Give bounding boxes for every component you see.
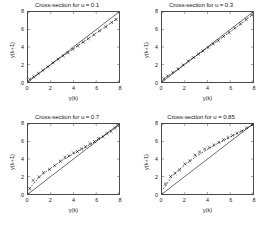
y-tick-label: 8 xyxy=(148,120,158,126)
x-tick-label: 2 xyxy=(183,85,186,91)
x-tick-label: 4 xyxy=(72,85,75,91)
y-tick-label: 6 xyxy=(148,26,158,32)
y-tick-label: 6 xyxy=(14,26,24,32)
data-point-marker xyxy=(194,154,197,157)
subplot-4: Cross-section for u = 0.850246802468y(k)… xyxy=(134,112,268,224)
x-axis-label: y(k) xyxy=(27,95,120,101)
data-point-marker xyxy=(169,175,172,178)
data-point-marker xyxy=(64,156,67,159)
data-point-marker xyxy=(228,31,231,34)
x-tick-label: 0 xyxy=(26,197,29,203)
y-tick-label: 0 xyxy=(14,192,24,198)
data-point-marker xyxy=(197,53,200,56)
x-axis-label: y(k) xyxy=(161,95,254,101)
data-point-marker xyxy=(53,164,56,167)
subplot-2: Cross-section for u = 0.30246802468y(k)y… xyxy=(134,0,268,112)
y-tick-label: 4 xyxy=(148,156,158,162)
subplot-title: Cross-section for u = 0.7 xyxy=(0,113,134,120)
data-point-marker xyxy=(240,130,243,133)
fit-curve-line xyxy=(29,126,118,189)
x-tick-label: 8 xyxy=(253,197,256,203)
data-point-marker xyxy=(82,41,85,44)
x-tick-label: 2 xyxy=(49,85,52,91)
data-point-marker xyxy=(203,147,206,150)
y-tick-label: 2 xyxy=(148,62,158,68)
plot-area xyxy=(27,11,120,83)
x-tick-label: 0 xyxy=(26,85,29,91)
plot-graphics xyxy=(28,12,119,82)
y-tick-label: 0 xyxy=(14,80,24,86)
y-tick-label: 2 xyxy=(14,62,24,68)
x-tick-label: 0 xyxy=(160,85,163,91)
x-tick-label: 0 xyxy=(160,197,163,203)
y-tick-label: 6 xyxy=(14,138,24,144)
y-tick-label: 8 xyxy=(148,8,158,14)
x-tick-label: 8 xyxy=(119,85,122,91)
figure-canvas: Cross-section for u = 0.10246802468y(k)y… xyxy=(0,0,269,225)
x-tick-label: 6 xyxy=(229,85,232,91)
identity-line xyxy=(162,124,253,194)
data-point-marker xyxy=(217,39,220,42)
y-tick-label: 6 xyxy=(148,138,158,144)
y-tick-label: 8 xyxy=(14,8,24,14)
y-tick-label: 4 xyxy=(14,44,24,50)
data-point-marker xyxy=(250,124,253,126)
x-tick-label: 4 xyxy=(206,85,209,91)
y-axis-label: y(k+1) xyxy=(143,30,149,70)
data-point-marker xyxy=(166,74,169,77)
plot-graphics xyxy=(162,124,253,194)
subplot-title: Cross-section for u = 0.1 xyxy=(0,1,134,8)
y-axis-label: y(k+1) xyxy=(9,142,15,182)
plot-area xyxy=(27,123,120,195)
data-point-marker xyxy=(98,29,101,32)
x-tick-label: 2 xyxy=(49,197,52,203)
x-tick-label: 8 xyxy=(253,85,256,91)
x-tick-label: 6 xyxy=(95,85,98,91)
data-point-marker xyxy=(110,21,113,24)
data-point-marker xyxy=(46,65,49,68)
x-tick-label: 6 xyxy=(229,197,232,203)
y-axis-label: y(k+1) xyxy=(143,142,149,182)
y-axis-label: y(k+1) xyxy=(9,30,15,70)
subplot-3: Cross-section for u = 0.70246802468y(k)y… xyxy=(0,112,134,224)
x-axis-label: y(k) xyxy=(161,207,254,213)
x-tick-label: 6 xyxy=(95,197,98,203)
data-point-marker xyxy=(52,61,55,64)
data-point-marker xyxy=(222,35,225,38)
plot-graphics xyxy=(28,124,119,194)
data-point-marker xyxy=(245,18,248,21)
data-point-marker xyxy=(71,48,74,51)
data-point-marker xyxy=(32,179,35,182)
subplot-title: Cross-section for u = 0.85 xyxy=(134,113,268,120)
data-point-marker xyxy=(67,154,70,157)
y-tick-label: 4 xyxy=(148,44,158,50)
x-tick-label: 8 xyxy=(119,197,122,203)
data-point-marker xyxy=(93,33,96,36)
data-point-marker xyxy=(162,77,165,80)
data-point-marker xyxy=(77,44,80,47)
x-tick-label: 4 xyxy=(72,197,75,203)
y-tick-label: 2 xyxy=(14,174,24,180)
data-point-marker xyxy=(198,151,201,154)
data-point-marker xyxy=(183,162,186,165)
y-tick-label: 0 xyxy=(148,192,158,198)
data-point-marker xyxy=(236,132,239,135)
x-tick-label: 2 xyxy=(183,197,186,203)
y-tick-label: 2 xyxy=(148,174,158,180)
subplot-1: Cross-section for u = 0.10246802468y(k)y… xyxy=(0,0,134,112)
x-axis-label: y(k) xyxy=(27,207,120,213)
y-tick-label: 0 xyxy=(148,80,158,86)
data-point-marker xyxy=(164,182,167,185)
subplot-title: Cross-section for u = 0.3 xyxy=(134,1,268,8)
plot-area xyxy=(161,123,254,195)
data-point-marker xyxy=(59,160,62,163)
data-point-marker xyxy=(250,14,253,17)
y-tick-label: 4 xyxy=(14,156,24,162)
x-tick-label: 4 xyxy=(206,197,209,203)
data-point-marker xyxy=(104,25,107,28)
data-point-marker xyxy=(174,172,177,175)
plot-area xyxy=(161,11,254,83)
data-point-marker xyxy=(239,22,242,25)
data-point-marker xyxy=(84,145,87,148)
data-point-markers xyxy=(164,124,253,185)
